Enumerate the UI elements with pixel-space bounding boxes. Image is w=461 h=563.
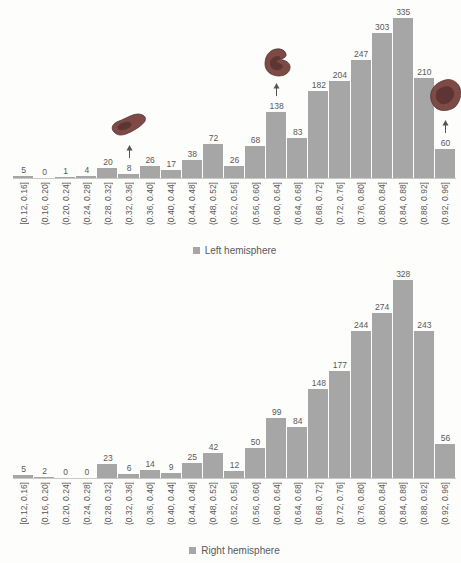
x-tick-label: (0.52, 0.56] bbox=[229, 482, 239, 525]
x-tick-label: (0.64, 0.68] bbox=[293, 182, 303, 225]
x-tick: (0.68, 0.72] bbox=[308, 179, 329, 239]
x-tick: (0.72, 0.76] bbox=[329, 479, 350, 539]
x-tick-label: (0.56, 0.60] bbox=[251, 182, 261, 225]
histogram-column: 8 bbox=[118, 163, 139, 178]
up-arrow-icon bbox=[125, 143, 134, 162]
bar bbox=[372, 313, 393, 478]
histogram-column: 68 bbox=[245, 135, 266, 179]
bar bbox=[329, 81, 350, 179]
bar-value-label: 182 bbox=[312, 80, 326, 91]
histogram-column: 56 bbox=[435, 433, 456, 478]
histogram-column: 5 bbox=[13, 165, 34, 178]
x-tick: (0.68, 0.72] bbox=[308, 479, 329, 539]
histogram-column: 274 bbox=[372, 302, 393, 478]
legend-label: Right hemisphere bbox=[201, 545, 279, 556]
bar bbox=[55, 177, 76, 178]
histogram-column: 204 bbox=[329, 70, 350, 179]
x-tick: (0.84, 0.88] bbox=[393, 179, 414, 239]
x-tick-label: (0.80, 0.84] bbox=[377, 482, 387, 525]
bar-value-label: 17 bbox=[166, 159, 175, 170]
bar-value-label: 99 bbox=[272, 407, 281, 418]
histogram-column: 335 bbox=[393, 7, 414, 178]
histogram-column: 99 bbox=[266, 407, 287, 478]
bar-value-label: 335 bbox=[396, 7, 410, 18]
bar-value-label: 247 bbox=[354, 49, 368, 60]
bar bbox=[203, 453, 224, 478]
right-hemisphere-chart: 5200236149254212509984148177244274328243… bbox=[0, 268, 461, 558]
histogram-column: 182 bbox=[308, 80, 329, 178]
histogram-column: 25 bbox=[182, 452, 203, 478]
x-tick: (0.88, 0.92] bbox=[414, 479, 435, 539]
x-tick-label: (0.16, 0.20] bbox=[40, 182, 50, 225]
x-tick: [0.12, 0.16] bbox=[13, 479, 34, 539]
x-tick-label: (0.76, 0.80] bbox=[356, 482, 366, 525]
bar-value-label: 38 bbox=[188, 149, 197, 160]
x-tick: (0.48, 0.52] bbox=[203, 479, 224, 539]
x-tick-label: [0.12, 0.16] bbox=[19, 182, 29, 225]
x-tick-label: (0.80, 0.84] bbox=[377, 182, 387, 225]
x-tick-label: (0.92, 0.96] bbox=[440, 182, 450, 225]
x-tick: (0.52, 0.56] bbox=[224, 479, 245, 539]
bar bbox=[224, 471, 245, 478]
histogram-column: 4 bbox=[76, 165, 97, 178]
x-tick: (0.44, 0.48] bbox=[182, 179, 203, 239]
x-tick-label: (0.20, 0.24] bbox=[61, 182, 71, 225]
x-tick-label: (0.24, 0.28] bbox=[82, 182, 92, 225]
bar-value-label: 4 bbox=[84, 165, 89, 176]
bar-value-label: 177 bbox=[333, 360, 347, 371]
bar bbox=[435, 149, 456, 178]
histogram-figure: 5014208261738722668138831822042473033352… bbox=[0, 0, 461, 563]
histogram-column: 9 bbox=[161, 462, 182, 478]
x-tick-label: (0.68, 0.72] bbox=[314, 482, 324, 525]
x-tick-label: (0.60, 0.64] bbox=[272, 482, 282, 525]
bar-value-label: 303 bbox=[375, 22, 389, 33]
histogram-column: 17 bbox=[161, 159, 182, 178]
bar bbox=[329, 371, 350, 478]
bar bbox=[161, 473, 182, 478]
bar bbox=[393, 18, 414, 178]
x-tick: (0.16, 0.20] bbox=[34, 179, 55, 239]
bar-value-label: 68 bbox=[251, 135, 260, 146]
histogram-column: 247 bbox=[351, 49, 372, 178]
histogram-column: 0 bbox=[34, 167, 55, 178]
x-tick-label: [0.12, 0.16] bbox=[19, 482, 29, 525]
x-tick: (0.52, 0.56] bbox=[224, 179, 245, 239]
bar bbox=[118, 474, 139, 478]
x-tick-label: (0.36, 0.40] bbox=[145, 482, 155, 525]
bar bbox=[287, 427, 308, 478]
histogram-column: 244 bbox=[351, 320, 372, 478]
histogram-column: 138 bbox=[266, 101, 287, 178]
x-tick: (0.88, 0.92] bbox=[414, 179, 435, 239]
bar-value-label: 5 bbox=[21, 165, 26, 176]
bar bbox=[13, 475, 34, 478]
bar-value-label: 23 bbox=[103, 453, 112, 464]
bar bbox=[245, 448, 266, 478]
bar bbox=[372, 33, 393, 178]
x-tick-label: (0.92, 0.96] bbox=[440, 482, 450, 525]
bar bbox=[161, 170, 182, 178]
bar bbox=[224, 166, 245, 178]
histogram-column: 38 bbox=[182, 149, 203, 178]
bar-value-label: 210 bbox=[417, 67, 431, 78]
x-tick-label: (0.56, 0.60] bbox=[251, 482, 261, 525]
x-tick-label: (0.52, 0.56] bbox=[229, 182, 239, 225]
bar bbox=[140, 470, 161, 478]
x-tick: (0.32, 0.36] bbox=[118, 479, 139, 539]
bar-value-label: 84 bbox=[293, 416, 302, 427]
histogram-column: 26 bbox=[224, 155, 245, 178]
x-tick: (0.24, 0.28] bbox=[76, 179, 97, 239]
bar-value-label: 50 bbox=[251, 437, 260, 448]
bar bbox=[76, 176, 97, 178]
histogram-column: 1 bbox=[55, 166, 76, 178]
right-hemisphere-legend: Right hemisphere bbox=[13, 542, 456, 558]
brain-parcel-thumbnail bbox=[260, 47, 294, 100]
x-tick: (0.40, 0.44] bbox=[161, 479, 182, 539]
bar bbox=[182, 463, 203, 478]
bar-value-label: 148 bbox=[312, 378, 326, 389]
left-hemisphere-chart: 5014208261738722668138831822042473033352… bbox=[0, 0, 461, 258]
histogram-column: 2 bbox=[34, 466, 55, 478]
right-hemisphere-x-axis-labels: [0.12, 0.16](0.16, 0.20](0.20, 0.24](0.2… bbox=[13, 479, 456, 539]
bar-value-label: 8 bbox=[127, 163, 132, 174]
left-hemisphere-plot-area: 5014208261738722668138831822042473033352… bbox=[13, 6, 456, 178]
bar-value-label: 138 bbox=[270, 101, 284, 112]
